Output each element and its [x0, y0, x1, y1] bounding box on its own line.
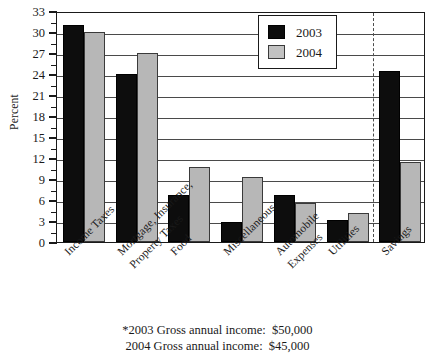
- footnote-2004: 2004 Gross annual income: $45,000: [0, 338, 435, 354]
- gridline-12: [57, 160, 424, 161]
- gridline-9: [57, 181, 424, 182]
- y-tick-label-30: 30: [3, 27, 45, 40]
- y-tick-label-6: 6: [3, 195, 45, 208]
- gridline-24: [57, 76, 424, 77]
- bar-2003-0: [63, 25, 84, 242]
- bar-2003-6: [379, 71, 400, 242]
- legend-label-2003: 2003: [296, 26, 322, 39]
- gridline-21: [57, 97, 424, 98]
- bar-chart: Percent 03691215182124273033 2003 2004 I…: [0, 0, 435, 363]
- legend-swatch-2004: [268, 45, 285, 59]
- gridline-30: [57, 34, 424, 35]
- y-tick-label-12: 12: [3, 153, 45, 166]
- y-tick-label-24: 24: [3, 69, 45, 82]
- legend-label-2004: 2004: [296, 46, 322, 59]
- y-tick-label-3: 3: [3, 216, 45, 229]
- y-tick-label-27: 27: [3, 48, 45, 61]
- footnotes: *2003 Gross annual income: $50,000 2004 …: [0, 322, 435, 354]
- y-tick-label-21: 21: [3, 90, 45, 103]
- legend-item-2004: 2004: [268, 42, 322, 62]
- gridline-15: [57, 139, 424, 140]
- legend-swatch-2003: [268, 25, 285, 39]
- footnote-2003: *2003 Gross annual income: $50,000: [0, 322, 435, 338]
- y-tick-label-15: 15: [3, 132, 45, 145]
- gridline-6: [57, 202, 424, 203]
- y-tick-label-0: 0: [3, 237, 45, 250]
- bar-2003-1: [116, 74, 137, 242]
- dashed-separator-line: [373, 13, 374, 242]
- bar-2004-2: [189, 167, 210, 242]
- y-tick-label-18: 18: [3, 111, 45, 124]
- y-tick-label-33: 33: [3, 6, 45, 19]
- gridline-18: [57, 118, 424, 119]
- legend: 2003 2004: [258, 15, 337, 69]
- gridline-27: [57, 55, 424, 56]
- legend-item-2003: 2003: [268, 22, 322, 42]
- y-tick-label-9: 9: [3, 174, 45, 187]
